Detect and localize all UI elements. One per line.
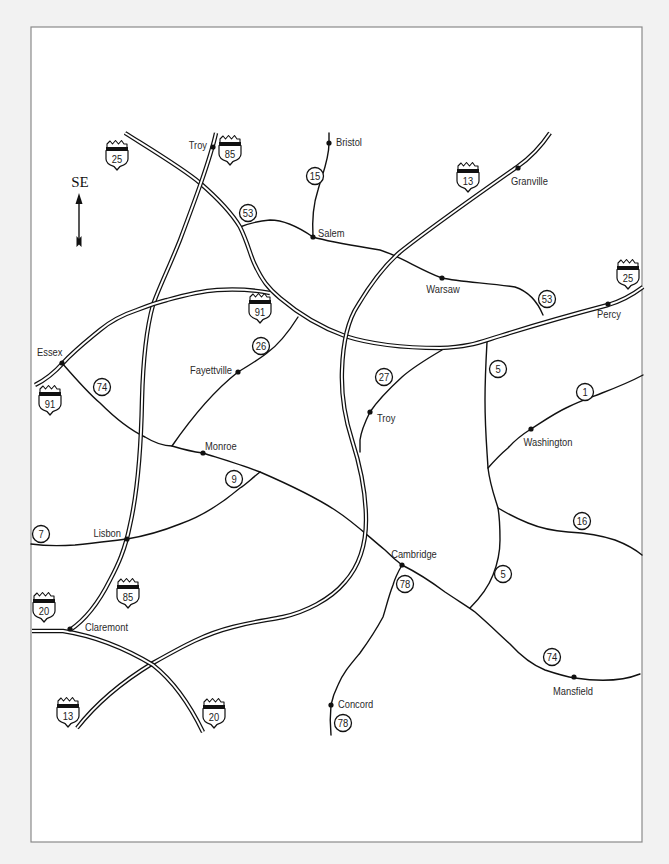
svg-text:9: 9 bbox=[231, 474, 237, 486]
city-dot-icon bbox=[515, 165, 520, 170]
svg-text:85: 85 bbox=[225, 148, 236, 160]
city-label: Bristol bbox=[336, 136, 362, 148]
svg-text:25: 25 bbox=[112, 153, 123, 165]
city-label: Salem bbox=[318, 227, 344, 239]
city-label: Monroe bbox=[205, 440, 237, 452]
svg-text:13: 13 bbox=[63, 710, 74, 722]
city-label: Mansfield bbox=[553, 685, 593, 697]
city-dot-icon bbox=[124, 536, 129, 541]
city-label: Concord bbox=[338, 698, 374, 710]
svg-text:25: 25 bbox=[623, 272, 634, 284]
route-marker-icon: 16 bbox=[574, 513, 591, 530]
city-label: Percy bbox=[597, 308, 622, 320]
svg-text:91: 91 bbox=[45, 398, 56, 410]
city-dot-icon bbox=[59, 360, 64, 365]
svg-text:13: 13 bbox=[463, 175, 474, 187]
svg-text:78: 78 bbox=[400, 579, 411, 591]
svg-text:16: 16 bbox=[577, 516, 588, 528]
city-dot-icon bbox=[528, 426, 533, 431]
route-marker-icon: 74 bbox=[94, 379, 111, 396]
svg-text:85: 85 bbox=[123, 591, 134, 603]
city-dot-icon bbox=[328, 702, 333, 707]
city-dot-icon bbox=[67, 626, 72, 631]
route-marker-icon: 1 bbox=[577, 384, 594, 401]
route-marker-icon: 53 bbox=[539, 291, 556, 308]
city-label: Fayettville bbox=[190, 364, 232, 376]
city-dot-icon bbox=[399, 562, 404, 567]
city-label: Essex bbox=[37, 346, 62, 358]
city-dot-icon bbox=[367, 409, 372, 414]
svg-text:26: 26 bbox=[256, 341, 267, 353]
route-marker-icon: 74 bbox=[544, 649, 561, 666]
svg-text:15: 15 bbox=[310, 171, 321, 183]
city-dot-icon bbox=[439, 275, 444, 280]
city-dot-icon bbox=[310, 234, 315, 239]
city-dot-icon bbox=[210, 144, 215, 149]
route-marker-icon: 7 bbox=[33, 526, 50, 543]
route-marker-icon: 26 bbox=[253, 338, 270, 355]
city-label: Lisbon bbox=[93, 527, 121, 539]
city-label: Warsaw bbox=[426, 283, 460, 295]
city-label: Washington bbox=[524, 436, 573, 448]
compass-label: SE bbox=[71, 174, 89, 190]
svg-text:78: 78 bbox=[338, 718, 349, 730]
svg-text:91: 91 bbox=[255, 306, 266, 318]
svg-text:1: 1 bbox=[582, 387, 588, 399]
svg-text:74: 74 bbox=[547, 652, 558, 664]
city-label: Granville bbox=[511, 175, 548, 187]
route-marker-icon: 5 bbox=[495, 566, 512, 583]
svg-text:7: 7 bbox=[38, 529, 44, 541]
city-label: Cambridge bbox=[391, 548, 437, 560]
svg-text:20: 20 bbox=[209, 711, 220, 723]
svg-text:53: 53 bbox=[542, 294, 553, 306]
route-marker-icon: 78 bbox=[335, 715, 352, 732]
route-marker-icon: 15 bbox=[307, 168, 324, 185]
city-label: Claremont bbox=[85, 621, 128, 633]
route-marker-icon: 9 bbox=[226, 471, 243, 488]
route-marker-icon: 5 bbox=[490, 361, 507, 378]
svg-text:5: 5 bbox=[495, 364, 501, 376]
city-dot-icon bbox=[605, 301, 610, 306]
city-dot-icon bbox=[326, 140, 331, 145]
route-marker-icon: 78 bbox=[397, 576, 414, 593]
svg-text:5: 5 bbox=[500, 569, 506, 581]
city-label: Troy bbox=[189, 139, 208, 151]
city-dot-icon bbox=[571, 674, 576, 679]
route-marker-icon: 27 bbox=[376, 369, 393, 386]
svg-text:27: 27 bbox=[379, 372, 390, 384]
route-marker-icon: 53 bbox=[240, 205, 257, 222]
city-dot-icon bbox=[235, 369, 240, 374]
road-map: 25 25 85 85 13 13 91 91 20 20 bbox=[0, 0, 669, 864]
svg-text:20: 20 bbox=[39, 605, 50, 617]
svg-text:53: 53 bbox=[243, 208, 254, 220]
svg-text:74: 74 bbox=[97, 382, 108, 394]
city-label: Troy bbox=[377, 412, 396, 424]
